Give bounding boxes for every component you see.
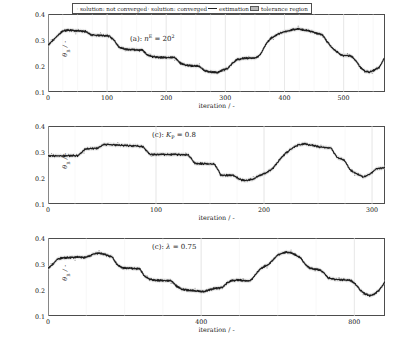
x-tick-c-lambda-1: 400 (195, 318, 207, 325)
line-plot-svg-a (48, 14, 385, 92)
y-axis-label-c-lambda: θB / - (61, 253, 70, 293)
y-tick-c-kp-2: 0.3 (35, 148, 45, 155)
plot-area-c-kp: θB / - 0.1 0.2 0.3 0.4 0 100 200 300 ite… (48, 126, 385, 204)
chart-panel-c-lambda: θB / - 0.1 0.2 0.3 0.4 0 400 800 iterati… (0, 224, 401, 341)
line-plot-svg-c-kp (48, 126, 385, 204)
panel-title-c-kp: (c): KP = 0.8 (152, 131, 196, 140)
y-tick-c-lambda-2: 0.3 (35, 260, 45, 267)
legend-label-tolerance-region: tolerance region (261, 6, 308, 12)
y-tick-c-lambda-0: 0.1 (35, 313, 45, 320)
y-axis-label-a: θB / - (61, 29, 70, 69)
panel-title-a: (a): nE = 202 (130, 34, 175, 43)
shaded-band-icon (250, 6, 259, 12)
plot-area-c-lambda: θB / - 0.1 0.2 0.3 0.4 0 400 800 iterati… (48, 238, 385, 316)
line-plot-svg-c-lambda (48, 238, 385, 316)
x-tick-c-kp-2: 200 (258, 206, 270, 213)
solid-line-icon (208, 8, 217, 9)
series-canvas-c-kp (48, 126, 385, 204)
figure-three-panel-line-charts: θB / - 0.1 0.2 0.3 0.4 0 100 200 300 400… (0, 0, 401, 341)
y-tick-c-lambda-3: 0.4 (35, 235, 45, 242)
x-tick-a-0: 0 (46, 94, 50, 101)
legend-label-estimation: estimation (219, 6, 249, 12)
y-tick-a-0: 0.1 (35, 89, 45, 96)
x-axis-label-c-kp: iteration / - (198, 214, 234, 222)
y-tick-a-1: 0.2 (35, 63, 45, 70)
x-tick-c-kp-3: 300 (366, 206, 378, 213)
x-axis-label-a: iteration / - (198, 102, 234, 110)
x-tick-c-kp-1: 100 (150, 206, 162, 213)
x-tick-c-lambda-0: 0 (46, 318, 50, 325)
y-axis-label-c-kp: θB / - (61, 141, 70, 181)
chart-panel-c-kp: θB / - 0.1 0.2 0.3 0.4 0 100 200 300 ite… (0, 112, 401, 226)
x-tick-a-1: 100 (101, 94, 113, 101)
x-axis-label-c-lambda: iteration / - (198, 326, 234, 334)
legend-item-tolerance-region: tolerance region (249, 6, 308, 12)
legend-item-converged: · solution: converged (147, 6, 207, 12)
y-tick-c-kp-1: 0.2 (35, 175, 45, 182)
x-tick-a-3: 300 (219, 94, 231, 101)
legend-item-not-converged: · solution: not converged (76, 6, 147, 12)
series-canvas-a (48, 14, 385, 92)
y-tick-c-kp-3: 0.4 (35, 123, 45, 130)
legend-label-converged: solution: converged (151, 6, 207, 12)
dot-marker-gray-icon: · (76, 7, 79, 10)
series-canvas-c-lambda (48, 238, 385, 316)
legend-item-estimation: estimation (207, 6, 249, 12)
x-tick-c-lambda-2: 800 (348, 318, 360, 325)
panel-title-c-lambda: (c): λ = 0.75 (152, 243, 196, 251)
legend-label-not-converged: solution: not converged (80, 6, 147, 12)
y-tick-c-kp-0: 0.1 (35, 201, 45, 208)
x-tick-a-2: 200 (160, 94, 172, 101)
chart-panel-a: θB / - 0.1 0.2 0.3 0.4 0 100 200 300 400… (0, 0, 401, 116)
y-tick-a-3: 0.4 (35, 11, 45, 18)
x-tick-a-4: 400 (278, 94, 290, 101)
y-tick-c-lambda-1: 0.2 (35, 287, 45, 294)
x-tick-a-5: 500 (338, 94, 350, 101)
y-tick-a-2: 0.3 (35, 36, 45, 43)
dot-marker-black-icon: · (147, 7, 150, 10)
plot-area-a: θB / - 0.1 0.2 0.3 0.4 0 100 200 300 400… (48, 14, 385, 92)
x-tick-c-kp-0: 0 (46, 206, 50, 213)
legend-box: · solution: not converged · solution: co… (72, 3, 312, 14)
